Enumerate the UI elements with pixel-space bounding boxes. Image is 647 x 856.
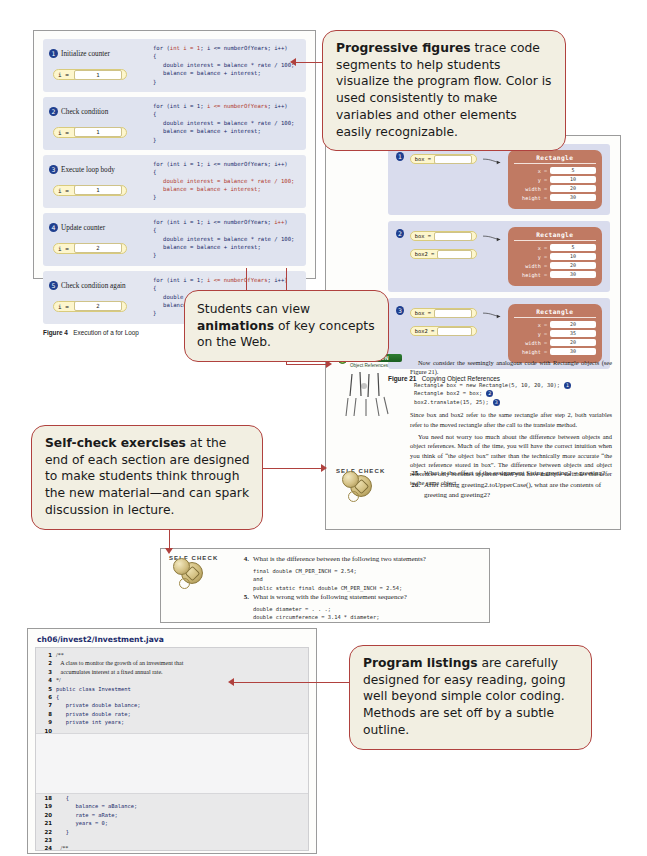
self-check-coin-small-icon <box>342 471 359 488</box>
line-number: 22 <box>36 828 52 836</box>
object-field: width =20 <box>514 339 596 346</box>
connector-selfcheck-arrow-top <box>321 464 327 472</box>
figure21-steps: 1box =Rectanglex =5y =10width =20height … <box>388 144 610 369</box>
field-name: height = <box>514 349 547 355</box>
figure4-caption-number: Figure 4 <box>43 329 68 336</box>
connector-progressive <box>294 62 322 63</box>
reference-arrow-icon <box>483 306 502 346</box>
trace-code: for (int i = 1; i <= numberOfYears; i++)… <box>153 102 300 144</box>
reference-slot <box>437 250 471 259</box>
question-code-line: double diameter = . . .; <box>253 605 481 614</box>
listing-line: balance = aBalance; <box>56 802 308 810</box>
trace-code: for (int i = 1; i <= numberOfYears; i++)… <box>153 218 300 260</box>
object-class-name: Rectangle <box>514 308 596 318</box>
line-number: 20 <box>36 811 52 819</box>
field-value: 20 <box>550 185 596 192</box>
listing-line: accumulates interest at a fixed annual r… <box>56 668 308 676</box>
field-value: 30 <box>550 271 596 278</box>
connector-selfcheck-top <box>263 468 325 469</box>
field-name: width = <box>514 186 547 192</box>
callout-progressive-lead: Progressive figures <box>336 41 471 55</box>
line-number: 6 <box>36 693 52 701</box>
object-field: y =10 <box>514 176 596 183</box>
object-field: x =5 <box>514 244 596 251</box>
question-number: 4. <box>237 555 249 565</box>
code-step-dot: 1 <box>564 382 571 389</box>
variable-value: 1 <box>74 127 122 137</box>
line-number: 23 <box>36 836 52 844</box>
object-field: x =5 <box>514 167 596 174</box>
object-field: height =30 <box>514 348 596 355</box>
connector-listing <box>232 682 349 683</box>
trace-step: 2Check conditioni =1for (int i = 1; i <=… <box>43 97 306 150</box>
object-field: y =35 <box>514 330 596 337</box>
variable-value: 2 <box>74 243 122 253</box>
question-code-line: public static final double CM_PER_INCH =… <box>253 584 481 593</box>
callout-program-listings: Program listings are carefully designed … <box>349 645 592 750</box>
step-number-badge: 1 <box>49 49 58 58</box>
program-listing-panel: ch06/invest2/Investment.java 12345678910… <box>27 628 317 854</box>
animation-sublabel: Object References <box>336 363 402 368</box>
reference-box: box2 = <box>410 326 477 336</box>
paragraph-2: Since box and box2 refer to the same rec… <box>410 410 612 429</box>
variable-box: i =1 <box>53 69 127 80</box>
question-text: What is wrong with the following stateme… <box>253 593 407 603</box>
listing-line: years = 0; <box>56 819 308 827</box>
callout-animations-pre: Students can view <box>197 302 310 316</box>
trace-step-left: 3Execute loop bodyi =1 <box>49 160 147 202</box>
question-text: What is the difference between the follo… <box>253 555 426 565</box>
listing-line: /** <box>56 844 308 851</box>
step-number-badge: 4 <box>49 223 58 232</box>
field-value: 20 <box>550 321 596 328</box>
listing-line: A class to monitor the growth of an inve… <box>56 659 308 667</box>
object-field: width =20 <box>514 262 596 269</box>
question-text: After calling greeting2.toUpperCase(), w… <box>424 481 612 501</box>
reference-name: box = <box>415 156 431 162</box>
callout-self-check-exercises: Self-check exercises at the end of each … <box>31 425 263 530</box>
reference-slot <box>437 327 471 336</box>
code-line: Rectangle box = new Rectangle(5, 10, 20,… <box>414 381 612 390</box>
field-value: 5 <box>550 167 596 174</box>
line-number: 4 <box>36 676 52 684</box>
callout-animations: Students can view animations of key conc… <box>184 290 389 362</box>
line-number: 7 <box>36 701 52 709</box>
field-name: y = <box>514 177 547 183</box>
line-number: 19 <box>36 802 52 810</box>
line-number: 1 <box>36 651 52 659</box>
callout-progressive-rest: trace code segments to help students vis… <box>336 41 552 139</box>
question-code-line: and <box>253 575 481 584</box>
line-number: 9 <box>36 718 52 726</box>
animation-icon-group[interactable]: ANIMATION Object References <box>336 354 402 422</box>
reference-slot <box>434 155 472 164</box>
object-step: 2box =box2 =Rectanglex =5y =10width =20h… <box>388 221 610 292</box>
line-number: 21 <box>36 819 52 827</box>
field-value: 5 <box>550 244 596 251</box>
right-page-self-check: SELF CHECK 25.What is the effect of the … <box>336 468 612 502</box>
object-step-number-badge: 2 <box>396 229 404 238</box>
object-field: width =20 <box>514 185 596 192</box>
self-check-question-list: 4.What is the difference between the fol… <box>237 555 481 622</box>
trace-code: for (int i = 1; i <= numberOfYears; i++)… <box>153 160 300 202</box>
listing-line: private int years; <box>56 718 308 726</box>
self-check-question: 26.After calling greeting2.toUpperCase()… <box>408 481 612 501</box>
code-line: box2.translate(15, 25);3 <box>414 398 612 407</box>
reference-name: box = <box>415 233 431 239</box>
object-field: y =10 <box>514 253 596 260</box>
listing-line: rate = aRate; <box>56 811 308 819</box>
reference-name: box2 = <box>415 251 434 257</box>
code-step-dot: 3 <box>493 399 500 406</box>
self-check-question: 4.What is the difference between the fol… <box>237 555 481 565</box>
step-number-badge: 5 <box>49 281 58 290</box>
reference-list: box =box2 = <box>410 227 477 267</box>
figure4-caption-text: Execution of a for Loop <box>73 329 139 336</box>
code-line: Rectangle box2 = box;2 <box>414 389 612 398</box>
reference-list: box = <box>410 150 477 172</box>
code-step-dot: 2 <box>486 390 493 397</box>
step-label: Update counter <box>61 224 105 232</box>
step-label: Execute loop body <box>61 166 115 174</box>
callout-listings-lead: Program listings <box>363 656 478 670</box>
figure4-steps: 1Initialize counteri =1for (int i = 1; i… <box>43 39 306 324</box>
self-check-ring-icon <box>348 491 359 502</box>
object-card: Rectanglex =5y =10width =20height =30 <box>508 227 602 286</box>
object-step-number-badge: 1 <box>396 152 404 161</box>
